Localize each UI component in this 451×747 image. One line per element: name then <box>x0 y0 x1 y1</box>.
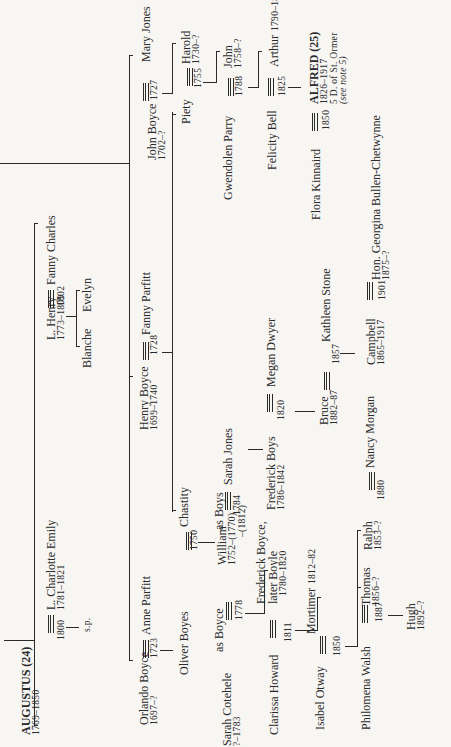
marriage-symbol <box>320 636 326 654</box>
marriage-symbol <box>369 472 375 490</box>
trunk-line <box>0 163 130 164</box>
marriage-year: 1880 <box>377 480 387 500</box>
john-boyce-tick <box>129 55 133 56</box>
marriage-year: 1850 <box>322 110 332 130</box>
person-harold: Harold1730–? <box>180 31 202 64</box>
person-john-boyce: John Boyce1702–? <box>146 104 168 160</box>
person-l-charlotte-emily: L. Charlotte Emily1781–1821 <box>45 520 67 610</box>
person-clarissa-howard: Clarissa Howard <box>268 655 280 735</box>
person-philomena-walsh: Philomena Walsh <box>360 646 372 730</box>
person-fanny-parfitt: Fanny Parfitt <box>140 272 152 335</box>
marriage-year: 1802 <box>57 286 67 306</box>
person-gwendolen-parry: Gwendolen Parry <box>222 116 234 200</box>
marriage-year: 1800 <box>57 620 67 640</box>
marriage-symbol <box>324 372 330 390</box>
augustus-connector <box>4 640 34 641</box>
person-fanny-charles: Fanny Charles <box>45 215 57 285</box>
marriage-symbol <box>268 78 274 96</box>
person-mary-jones: Mary Jones <box>140 6 152 62</box>
marriage-year: 1750 <box>190 530 200 550</box>
label-sp: s.p. <box>83 618 93 632</box>
marriage-symbol <box>312 113 318 131</box>
marriage-year: 1727 <box>150 80 160 100</box>
person-augustus: AUGUSTUS (24)1769–1850 <box>20 647 42 735</box>
person-henry-boyce: Henry Boyce1699–1740 <box>138 366 160 430</box>
family-tree: John Boyce1702–? 1727 Mary Jones Piety 1… <box>0 0 451 747</box>
person-oliver-boyes: Oliver Boyes <box>178 611 190 675</box>
person-frederick-boyce: Frederick Boyce,later Boyle1780–1820 <box>255 521 289 604</box>
marriage-year: 1901 <box>378 280 388 300</box>
marriage-year: 1887 <box>375 602 385 622</box>
marriage-year: 1755 <box>194 68 204 88</box>
marriage-symbol <box>362 605 368 623</box>
orlando-tick <box>129 660 133 661</box>
person-georgina-bullen-chetwynne: Hon. Georgina Bullen-Chetwynne1875–? <box>370 115 392 280</box>
marriage-symbol <box>267 394 273 412</box>
person-thomas: Thomas1856–? <box>360 567 382 606</box>
person-campbell: Campbell1865–1917 <box>365 318 387 365</box>
person-william: William1752–(1770)–(1812) <box>216 505 247 565</box>
marriage-year: 1825 <box>278 76 288 96</box>
person-arthur: Arthur 1790–1830 <box>265 0 281 67</box>
person-piety: Piety <box>180 99 192 124</box>
marriage-year: 1778 <box>235 600 245 620</box>
main-sibling-line <box>129 300 130 660</box>
person-anne-parfitt: Anne Parfitt <box>140 576 152 635</box>
marriage-symbol <box>226 602 232 620</box>
person-sarah-jones: Sarah Jones <box>222 428 234 485</box>
marriage-symbol <box>270 620 276 638</box>
label-as-boyce: as Boyce <box>213 608 225 652</box>
marriage-year: 1723 <box>150 638 160 658</box>
person-john: John1758–? <box>222 38 244 68</box>
person-orlando-boyce: Orlando Boyce1697–? <box>138 652 160 725</box>
person-sarah-cotehele: Sarah Cotehele?–1783 <box>221 673 243 746</box>
person-isabel-otway: Isabel Otway <box>314 666 326 730</box>
marriage-year: 1788 <box>235 76 245 96</box>
person-ralph: Ralph1853–? <box>362 520 384 550</box>
marriage-year: 1850 <box>333 636 343 656</box>
marriage-year: 1857 <box>332 344 342 364</box>
marriage-symbol <box>48 615 54 633</box>
person-bruce: Bruce1882–87 <box>318 390 340 425</box>
person-kathleen-stone: Kathleen Stone <box>320 268 332 342</box>
person-evelyn: Evelyn <box>81 278 93 312</box>
marriage-symbol <box>367 282 373 300</box>
person-felicity-bell: Felicity Bell <box>266 110 278 170</box>
person-frederick-boys: Frederick Boys1786–1842 <box>265 436 287 510</box>
marriage-year: 1728 <box>150 335 160 355</box>
person-nancy-morgan: Nancy Morgan <box>364 396 376 468</box>
person-alfred: ALFRED (25) 1826–1917 5 D. of St. Ormer … <box>308 32 349 104</box>
person-hugh: Hugh1892–? <box>405 600 427 630</box>
marriage-year: 1820 <box>277 400 287 420</box>
marriage-year: 1811 <box>284 622 294 642</box>
person-chastity: Chastity <box>178 487 190 527</box>
person-flora-kinnaird: Flora Kinnaird <box>310 149 322 220</box>
person-mortimer: Mortimer 1812–82 <box>302 549 318 634</box>
person-megan-dwyer: Megan Dwyer <box>265 318 277 387</box>
henry-boyce-children-line <box>172 112 173 512</box>
person-blanche: Blanche <box>81 329 93 368</box>
